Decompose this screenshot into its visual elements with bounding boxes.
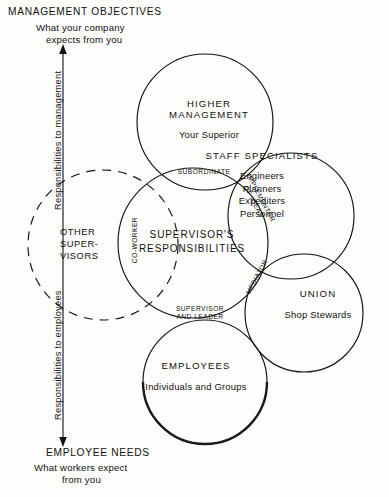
header-subtitle-line1: What your company [36, 22, 125, 34]
header-subtitle: What your company expects from you [36, 22, 125, 46]
footer-subtitle-line1: What workers expect [34, 462, 127, 474]
label-other-supervisors: OTHER SUPER- VISORS [60, 226, 120, 263]
label-employees-heading: EMPLOYEES [121, 360, 271, 371]
diagram-canvas: MANAGEMENT OBJECTIVES What your company … [0, 0, 389, 497]
label-higher-management: HIGHER MANAGEMENT Your Superior [154, 98, 264, 140]
axis-label-to-management: Responsibilities to management [53, 71, 63, 210]
label-supervisors-responsibilities-line1: SUPERVISOR'S [127, 228, 257, 242]
overlap-label-supervisor-and-leader-line2: AND LEADER [176, 313, 224, 321]
label-union: UNION Shop Stewards [263, 288, 373, 320]
header-title: MANAGEMENT OBJECTIVES [8, 6, 162, 18]
label-supervisors-responsibilities: SUPERVISOR'S RESPONSIBILITIES [127, 228, 257, 255]
label-higher-management-subtitle: Your Superior [154, 129, 264, 140]
label-higher-management-line1: HIGHER [154, 98, 264, 109]
header-subtitle-line2: expects from you [36, 34, 125, 46]
overlap-label-supervisor-and-leader-line1: SUPERVISOR [176, 305, 224, 313]
overlap-label-supervisor-and-leader: SUPERVISOR AND LEADER [176, 305, 224, 321]
label-other-supervisors-line2: SUPER- [60, 238, 120, 250]
label-union-heading: UNION [263, 288, 373, 299]
label-employees-subtitle: Individuals and Groups [121, 381, 271, 392]
footer-subtitle-line2: from you [34, 474, 127, 486]
footer-subtitle: What workers expect from you [34, 462, 127, 486]
axis-label-to-employees: Responsibilities to employees [53, 290, 63, 420]
footer-title: EMPLOYEE NEEDS [46, 447, 150, 459]
label-other-supervisors-line3: VISORS [60, 250, 120, 262]
overlap-label-subordinate: SUBORDINATE [178, 168, 231, 176]
label-higher-management-line2: MANAGEMENT [154, 109, 264, 120]
label-union-subtitle: Shop Stewards [263, 309, 373, 320]
label-staff-specialists-heading: STAFF SPECIALISTS [202, 150, 322, 161]
overlap-label-co-worker: CO-WORKER [131, 217, 139, 263]
axis-arrow-down-icon [59, 437, 67, 447]
label-employees: EMPLOYEES Individuals and Groups [121, 360, 271, 392]
label-supervisors-responsibilities-line2: RESPONSIBILITIES [127, 242, 257, 256]
label-other-supervisors-line1: OTHER [60, 226, 120, 238]
